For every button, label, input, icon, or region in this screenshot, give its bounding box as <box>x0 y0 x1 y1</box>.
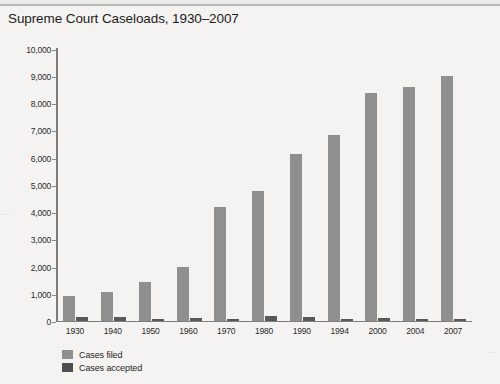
y-axis-label: 1,000 <box>31 290 51 300</box>
y-tick-mark <box>52 77 56 78</box>
chart-legend: Cases filedCases accepted <box>62 348 142 374</box>
y-tick-mark <box>52 240 56 241</box>
legend-item: Cases accepted <box>62 361 142 374</box>
y-axis-label: 9,000 <box>31 72 51 82</box>
bar-accepted-1980 <box>265 316 277 321</box>
y-tick-mark <box>52 186 56 187</box>
bar-accepted-1970 <box>227 319 239 321</box>
y-axis-label: 2,000 <box>31 263 51 273</box>
bar-group <box>246 48 284 321</box>
x-axis-label: 1930 <box>66 326 84 336</box>
bar-group <box>283 48 321 321</box>
legend-swatch <box>62 363 73 372</box>
bar-accepted-2007 <box>454 319 466 321</box>
y-axis-label: 3,000 <box>31 235 51 245</box>
bar-group <box>170 48 208 321</box>
x-axis-label: 1980 <box>255 326 273 336</box>
y-axis-label: 4,000 <box>31 208 51 218</box>
y-tick-mark <box>52 131 56 132</box>
bar-filed-1960 <box>177 267 189 320</box>
x-axis-label: 1940 <box>104 326 122 336</box>
y-tick-mark <box>52 159 56 160</box>
y-tick-mark <box>52 104 56 105</box>
bar-filed-2004 <box>403 87 415 321</box>
x-axis-line <box>56 321 472 323</box>
bar-accepted-2000 <box>378 318 390 320</box>
bar-filed-1980 <box>252 191 264 321</box>
bar-filed-1930 <box>63 296 75 321</box>
bar-filed-2000 <box>365 93 377 320</box>
bar-group <box>321 48 359 321</box>
x-axis-label: 1970 <box>217 326 235 336</box>
bar-series-container <box>57 48 472 321</box>
y-tick-mark <box>52 322 56 323</box>
chart-title: Supreme Court Caseloads, 1930–2007 <box>8 11 239 26</box>
bar-filed-1940 <box>101 292 113 321</box>
y-axis-label: 10,000 <box>26 45 51 55</box>
bar-group <box>434 48 472 321</box>
legend-swatch <box>62 350 73 359</box>
legend-item: Cases filed <box>62 348 142 361</box>
bar-group <box>359 48 397 321</box>
y-tick-mark <box>52 50 56 51</box>
x-axis-label: 1950 <box>141 326 159 336</box>
bar-group <box>95 48 133 321</box>
bar-accepted-1994 <box>341 319 353 320</box>
y-axis-label: 5,000 <box>31 181 51 191</box>
bar-group <box>132 48 170 321</box>
bar-filed-1994 <box>328 135 340 320</box>
y-tick-mark <box>52 268 56 269</box>
chart-page: Supreme Court Caseloads, 1930–2007 01,00… <box>0 0 500 384</box>
bar-group <box>208 48 246 321</box>
y-axis-label: 0 <box>46 317 51 327</box>
y-axis-label: 6,000 <box>31 154 51 164</box>
x-axis-label: 1960 <box>179 326 197 336</box>
legend-label: Cases filed <box>79 350 122 360</box>
legend-label: Cases accepted <box>79 363 142 373</box>
bar-accepted-2004 <box>416 319 428 321</box>
x-axis-label: 2000 <box>368 326 386 336</box>
bar-accepted-1960 <box>190 318 202 320</box>
bar-filed-1950 <box>139 282 151 320</box>
x-axis-label: 1994 <box>331 326 349 336</box>
scan-artifact-right <box>488 352 494 353</box>
y-axis-label: 7,000 <box>31 126 51 136</box>
bar-filed-2007 <box>441 76 453 320</box>
bar-group <box>397 48 435 321</box>
bar-group <box>57 48 95 321</box>
bar-accepted-1990 <box>303 317 315 321</box>
x-axis-label: 2004 <box>406 326 424 336</box>
y-axis-label: 8,000 <box>31 99 51 109</box>
bar-accepted-1940 <box>114 317 126 321</box>
bar-accepted-1950 <box>152 319 164 321</box>
bar-filed-1970 <box>214 207 226 320</box>
x-axis-label: 1990 <box>293 326 311 336</box>
x-axis-label: 2007 <box>444 326 462 336</box>
plot-area <box>56 48 472 322</box>
bar-filed-1990 <box>290 154 302 321</box>
y-tick-mark <box>52 295 56 296</box>
scan-artifact <box>2 214 9 215</box>
y-tick-mark <box>52 213 56 214</box>
bar-accepted-1930 <box>76 317 88 321</box>
